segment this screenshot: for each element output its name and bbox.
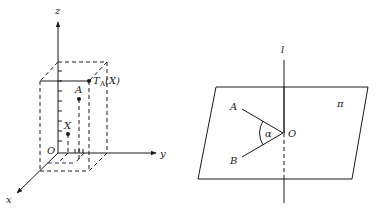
point-b-label: B (229, 155, 237, 166)
projection-diag-a (76, 153, 84, 162)
box-bottom-right-edge (89, 153, 107, 171)
point-t-argument: (X) (105, 75, 120, 86)
x-axis (17, 153, 58, 193)
z-axis-label: z (54, 5, 61, 16)
angle-arc (260, 121, 263, 145)
point-x (66, 132, 70, 136)
point-a-right-label: A (229, 101, 237, 112)
box-top-left-edge (40, 62, 58, 81)
plane-angle-figure: l π A B O α (198, 44, 368, 203)
plane-pi-label: π (336, 98, 344, 109)
point-t-a-x (87, 79, 91, 83)
coordinate-box-figure: z y x O X A T A (X) (6, 5, 166, 205)
projection-diag-x (60, 153, 68, 161)
line-l-label: l (281, 44, 284, 55)
point-a-label: A (74, 84, 82, 95)
diagram-canvas: z y x O X A T A (X) l π A B O α (0, 0, 376, 218)
point-o-label: O (288, 128, 296, 139)
point-x-label: X (63, 120, 72, 131)
origin-label: O (47, 145, 55, 156)
angle-alpha-label: α (265, 128, 272, 139)
y-axis-label: y (159, 148, 166, 159)
x-axis-label: x (6, 194, 12, 205)
point-a (77, 97, 81, 101)
